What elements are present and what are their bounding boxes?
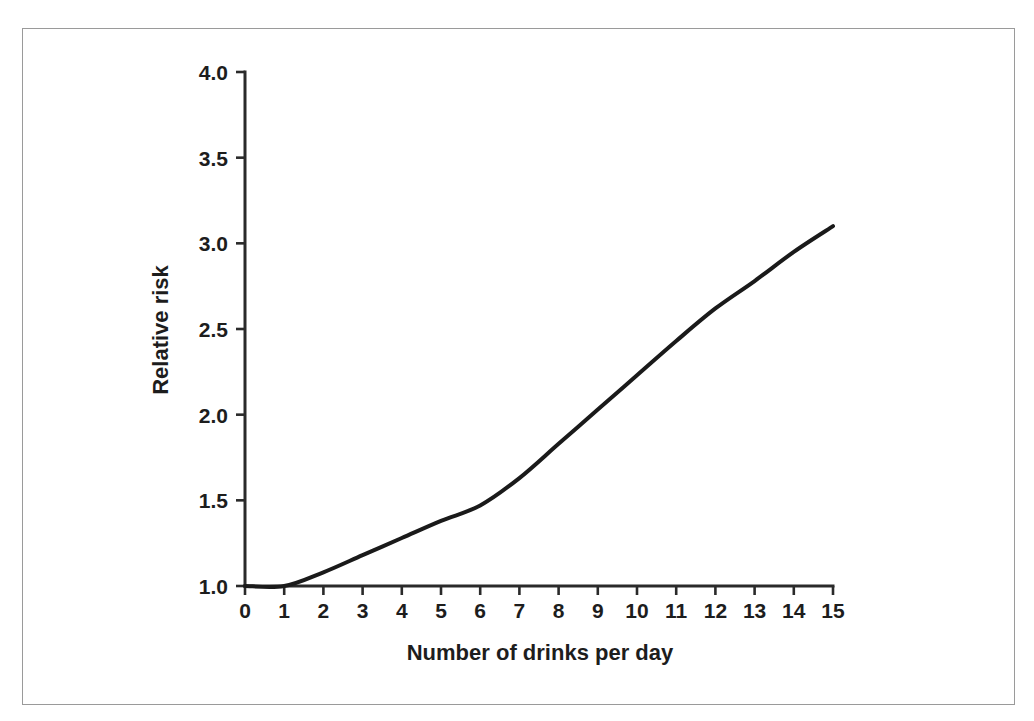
x-tick-label: 5 [435,599,447,622]
x-tick-label: 13 [743,599,766,622]
y-tick-label: 2.5 [199,318,229,341]
x-tick-label: 0 [239,599,251,622]
x-tick-label: 7 [514,599,526,622]
x-axis-tick-labels: 0123456789101112131415 [239,599,845,622]
x-tick-label: 3 [357,599,369,622]
y-tick-label: 3.5 [199,147,229,170]
y-tick-label: 2.0 [199,404,228,427]
x-tick-label: 11 [665,599,688,622]
axis-tick-marks [236,72,833,595]
y-tick-label: 1.0 [199,575,228,598]
x-tick-label: 12 [704,599,727,622]
data-curve-relative-risk [245,226,833,587]
x-tick-label: 4 [396,599,408,622]
x-tick-label: 10 [625,599,648,622]
chart-container: 1.01.52.02.53.03.54.0 012345678910111213… [0,0,1034,721]
x-tick-label: 8 [553,599,565,622]
x-tick-label: 6 [474,599,486,622]
relative-risk-line-chart: 1.01.52.02.53.03.54.0 012345678910111213… [0,0,1034,721]
x-tick-label: 15 [821,599,845,622]
y-axis-title: Relative risk [148,264,173,394]
y-tick-label: 1.5 [199,489,229,512]
y-axis-tick-labels: 1.01.52.02.53.03.54.0 [199,61,229,598]
x-axis-title: Number of drinks per day [407,640,674,665]
y-tick-label: 3.0 [199,232,228,255]
x-tick-label: 9 [592,599,604,622]
y-tick-label: 4.0 [199,61,228,84]
x-tick-label: 2 [318,599,330,622]
x-tick-label: 1 [278,599,290,622]
x-tick-label: 14 [782,599,806,622]
